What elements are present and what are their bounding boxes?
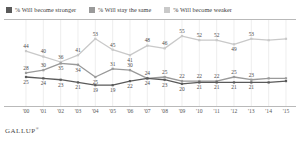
x-tick-label: '10 [196, 108, 203, 114]
data-label: 30 [127, 62, 133, 68]
data-point [112, 68, 114, 70]
chart-legend: % Will become stronger % Will stay the s… [0, 0, 300, 19]
data-label: 25 [23, 79, 29, 85]
legend-item-stronger[interactable]: % Will become stronger [6, 6, 76, 13]
x-tick-label: '01 [40, 108, 47, 114]
data-point [268, 39, 270, 41]
data-point [198, 81, 200, 83]
data-point [112, 84, 114, 86]
data-label: 19 [93, 87, 99, 93]
gallup-wordmark: GALLUP [5, 127, 36, 135]
data-label: 49 [231, 46, 237, 52]
data-label: 46 [162, 40, 168, 46]
data-label: 23 [249, 72, 255, 78]
data-label: 41 [75, 47, 81, 53]
data-point [77, 64, 79, 66]
data-point [94, 76, 96, 78]
data-point [250, 38, 252, 40]
data-label: 30 [41, 62, 47, 68]
data-point [60, 79, 62, 81]
gallup-logo: GALLUP® [5, 126, 39, 135]
data-point [285, 38, 287, 40]
data-label: 40 [41, 48, 47, 54]
data-label: 22 [127, 83, 133, 89]
data-point [181, 83, 183, 85]
data-point [25, 50, 27, 52]
data-label: 53 [249, 31, 255, 37]
data-label: 34 [75, 67, 81, 73]
x-tick-label: '08 [161, 108, 168, 114]
data-label: 48 [145, 37, 151, 43]
data-label: 22 [214, 73, 220, 79]
data-point [268, 81, 270, 83]
data-label: 45 [110, 42, 116, 48]
x-axis-labels: '00'01'02'03'04'05'06'07'08'09'10'11'12'… [4, 108, 296, 120]
chart-root: % Will become stronger % Will stay the s… [0, 0, 300, 142]
x-tick-label: '13 [248, 108, 255, 114]
legend-item-same[interactable]: % Will stay the same [89, 6, 151, 13]
data-point [181, 80, 183, 82]
data-point [25, 72, 27, 74]
data-label: 36 [58, 54, 64, 60]
data-label: 22 [197, 73, 203, 79]
x-tick-label: '15 [283, 108, 290, 114]
data-label: 24 [41, 80, 47, 86]
data-point [164, 47, 166, 49]
data-label: 23 [162, 82, 168, 88]
data-label: 35 [58, 65, 64, 71]
series-line [26, 36, 286, 62]
data-label: 21 [214, 84, 220, 90]
legend-label-same: % Will stay the same [98, 6, 151, 13]
data-point [146, 45, 148, 47]
data-point [146, 77, 148, 79]
x-tick-label: '06 [127, 108, 134, 114]
data-label: 21 [197, 84, 203, 90]
data-point [268, 77, 270, 79]
data-label: 21 [249, 84, 255, 90]
data-label: 31 [110, 61, 116, 67]
data-point [42, 77, 44, 79]
data-label: 44 [23, 43, 29, 49]
data-point [233, 81, 235, 83]
data-label: 24 [145, 70, 151, 76]
legend-label-stronger: % Will become stronger [15, 6, 76, 13]
data-label: 53 [93, 31, 99, 37]
registered-mark: ® [36, 126, 40, 131]
data-point [285, 80, 287, 82]
data-point [94, 38, 96, 40]
data-label: 21 [231, 84, 237, 90]
legend-label-weaker: % Will become weaker [173, 6, 232, 13]
x-tick-label: '00 [23, 108, 30, 114]
data-point [216, 81, 218, 83]
x-tick-label: '12 [231, 108, 238, 114]
data-point [60, 62, 62, 64]
data-point [94, 84, 96, 86]
data-label: 20 [179, 86, 185, 92]
data-point [216, 39, 218, 41]
legend-swatch-stronger [6, 7, 12, 13]
legend-swatch-weaker [164, 7, 170, 13]
data-label: 21 [75, 84, 81, 90]
data-label: 25 [231, 69, 237, 75]
data-label: 55 [179, 28, 185, 34]
data-point [77, 81, 79, 83]
data-point [181, 35, 183, 37]
data-point [250, 79, 252, 81]
data-label: 24 [145, 80, 151, 86]
x-tick-label: '11 [213, 108, 219, 114]
chart-plot-area: 4440364153454148465552524953283035342531… [4, 20, 296, 106]
data-point [25, 76, 27, 78]
data-point [198, 39, 200, 41]
line-chart-svg: 4440364153454148465552524953283035342531… [4, 20, 296, 106]
data-label: 25 [162, 69, 168, 75]
x-tick-label: '07 [144, 108, 151, 114]
x-tick-label: '14 [265, 108, 272, 114]
data-point [42, 55, 44, 57]
legend-item-weaker[interactable]: % Will become weaker [164, 6, 232, 13]
data-label: 22 [179, 73, 185, 79]
data-point [164, 76, 166, 78]
data-point [129, 54, 131, 56]
data-point [112, 49, 114, 51]
x-tick-label: '02 [57, 108, 64, 114]
data-label: 23 [58, 82, 64, 88]
